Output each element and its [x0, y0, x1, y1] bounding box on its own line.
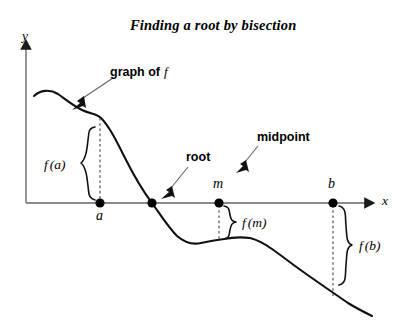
point-label-a: a: [96, 209, 103, 223]
brace-label-f-of-a-arg: (a): [48, 157, 66, 172]
point-b: [328, 198, 337, 207]
x-axis-label: x: [382, 194, 388, 208]
annotation-graph-of-f-symbol: f: [160, 64, 168, 79]
brace-label-f-of-b-arg: (b): [363, 238, 381, 253]
arrowhead-root: [161, 186, 175, 199]
annotation-root: root: [186, 151, 210, 164]
annotation-midpoint: midpoint: [257, 131, 310, 144]
brace-f-of-b: [339, 206, 352, 285]
leader-midpoint: [245, 146, 258, 162]
point-a: [95, 198, 104, 207]
brace-label-f-of-a: f(a): [44, 156, 66, 172]
leader-graph-of-f: [83, 78, 113, 98]
point-m: [214, 198, 223, 207]
point-label-b: b: [328, 177, 335, 191]
point-label-m: m: [213, 177, 223, 191]
brace-label-f-of-b: f(b): [359, 237, 381, 253]
arrowhead-midpoint: [236, 160, 249, 173]
page-title: Finding a root by bisection: [130, 18, 297, 33]
leader-root: [171, 167, 188, 188]
brace-f-of-m: [224, 206, 236, 239]
brace-label-f-of-m-arg: (m): [246, 215, 267, 230]
brace-f-of-a: [81, 127, 95, 200]
annotation-graph-of-f-text: graph of: [110, 65, 160, 79]
annotation-graph-of-f: graph off: [110, 63, 168, 79]
brace-label-f-of-m: f(m): [242, 214, 267, 230]
point-root: [147, 198, 156, 207]
bisection-figure: Finding a root by bisection y x graph of…: [0, 0, 412, 322]
y-axis-label: y: [22, 29, 28, 43]
